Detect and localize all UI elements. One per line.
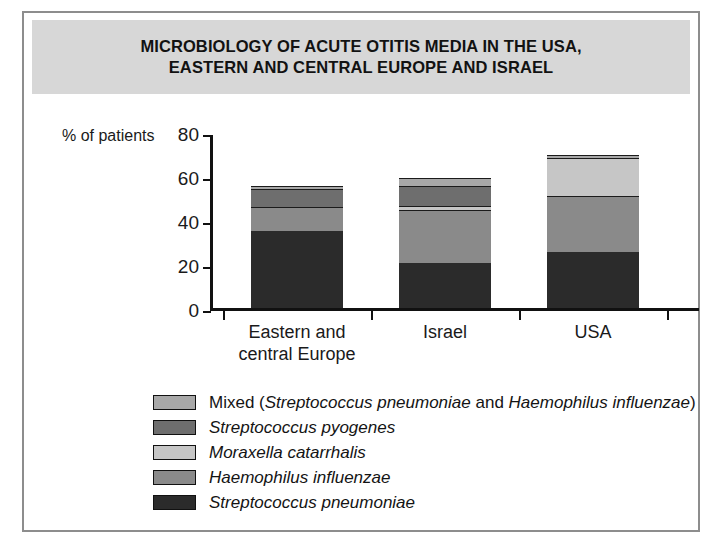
bar-stack[interactable] xyxy=(399,178,491,308)
y-tick xyxy=(203,135,211,137)
chart-legend: Mixed (Streptococcus pneumoniae and Haem… xyxy=(153,390,696,515)
y-tick xyxy=(203,267,211,269)
legend-label: Moraxella catarrhalis xyxy=(209,443,366,463)
y-tick-label: 20 xyxy=(178,256,199,278)
legend-swatch xyxy=(153,420,196,435)
legend-item[interactable]: Streptococcus pneumoniae xyxy=(153,490,696,515)
bar-stack[interactable] xyxy=(251,186,343,308)
x-tick xyxy=(371,311,373,320)
legend-item[interactable]: Streptococcus pyogenes xyxy=(153,415,696,440)
x-axis-line xyxy=(210,308,699,311)
bar-segment[interactable] xyxy=(399,186,491,206)
bar-segment[interactable] xyxy=(399,210,491,263)
y-axis-label: % of patients xyxy=(62,127,155,145)
plot-area: 020406080 Eastern andcentral EuropeIsrae… xyxy=(210,125,699,311)
legend-swatch xyxy=(153,470,196,485)
bar-segment[interactable] xyxy=(251,231,343,308)
x-tick xyxy=(519,311,521,320)
x-tick xyxy=(223,311,225,320)
chart-title-line1: MICROBIOLOGY OF ACUTE OTITIS MEDIA IN TH… xyxy=(140,36,581,57)
figure-frame: MICROBIOLOGY OF ACUTE OTITIS MEDIA IN TH… xyxy=(22,11,700,532)
y-tick xyxy=(203,179,211,181)
legend-swatch xyxy=(153,395,196,410)
bar-segment[interactable] xyxy=(547,196,639,252)
chart-title-line2: EASTERN AND CENTRAL EUROPE AND ISRAEL xyxy=(169,57,553,78)
bar-segment[interactable] xyxy=(399,178,491,186)
legend-swatch xyxy=(153,495,196,510)
bar-segment[interactable] xyxy=(399,263,491,308)
x-category-label: USA xyxy=(493,321,693,343)
legend-label: Mixed (Streptococcus pneumoniae and Haem… xyxy=(209,393,696,413)
y-tick xyxy=(203,223,211,225)
bar-segment[interactable] xyxy=(547,252,639,308)
bar-segment[interactable] xyxy=(547,158,639,195)
y-tick xyxy=(203,311,211,313)
legend-swatch xyxy=(153,445,196,460)
legend-label: Haemophilus influenzae xyxy=(209,468,390,488)
bar-segment[interactable] xyxy=(251,207,343,231)
y-tick-label: 80 xyxy=(178,124,199,146)
x-tick xyxy=(667,311,669,320)
legend-item[interactable]: Moraxella catarrhalis xyxy=(153,440,696,465)
bar-segment[interactable] xyxy=(251,189,343,207)
chart-title-banner: MICROBIOLOGY OF ACUTE OTITIS MEDIA IN TH… xyxy=(32,20,690,94)
legend-label: Streptococcus pyogenes xyxy=(209,418,395,438)
y-tick-label: 60 xyxy=(178,168,199,190)
bar-stack[interactable] xyxy=(547,155,639,308)
legend-item[interactable]: Mixed (Streptococcus pneumoniae and Haem… xyxy=(153,390,696,415)
y-tick-label: 40 xyxy=(178,212,199,234)
y-tick-label: 0 xyxy=(188,300,199,322)
legend-label: Streptococcus pneumoniae xyxy=(209,493,415,513)
legend-item[interactable]: Haemophilus influenzae xyxy=(153,465,696,490)
